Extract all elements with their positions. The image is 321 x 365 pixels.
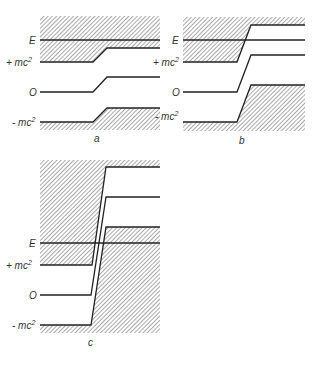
label-minus-mc2: - mc2 — [12, 116, 35, 128]
label-plus-mc2: + mc2 — [153, 56, 179, 68]
klein-paradox-diagram: E + mc2 O - mc2 a E + mc2 O - mc2 b E + … — [0, 0, 321, 365]
caption-c: c — [88, 337, 93, 348]
caption-a: a — [94, 133, 100, 144]
caption-b: b — [239, 135, 245, 146]
label-zero: O — [29, 87, 37, 98]
panel-a: E + mc2 O - mc2 a — [6, 16, 160, 144]
label-minus-mc2: - mc2 — [12, 319, 35, 331]
label-zero: O — [29, 290, 37, 301]
label-plus-mc2: + mc2 — [6, 259, 32, 271]
lower-continuum-hatch — [40, 108, 160, 130]
label-e: E — [29, 35, 36, 46]
zero-line — [40, 77, 160, 92]
label-minus-mc2: - mc2 — [155, 110, 178, 122]
panel-c: E + mc2 O - mc2 c — [6, 160, 160, 348]
panel-b: E + mc2 O - mc2 b — [153, 17, 305, 146]
label-zero: O — [172, 87, 180, 98]
label-e: E — [172, 35, 179, 46]
label-plus-mc2: + mc2 — [6, 56, 32, 68]
label-e: E — [29, 238, 36, 249]
